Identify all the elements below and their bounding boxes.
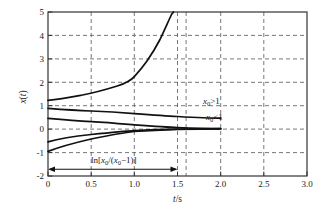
y-axis-label: x(t) [18,90,29,104]
xtick-label-2p5: 2.5 [258,179,270,189]
ytick-label-neg2: -2 [37,171,45,181]
annotation-tc-pre: ln[ [91,155,101,165]
ytick-label-0: 0 [40,124,45,134]
xtick-label-1p0: 1.0 [129,179,141,189]
ytick-label-1: 1 [40,101,45,111]
x-axis-label: t/s [173,194,182,204]
annotation-tc-post: −1)] [121,155,137,165]
xtick-label-0p5: 0.5 [86,179,98,189]
y-axis-label-close: ) [18,90,29,93]
xtick-label-0: 0 [46,179,51,189]
xtick-label-2p0: 2.0 [215,179,227,189]
annotation-x0-gt-1: x0>1 [202,96,220,107]
ytick-label-2: 2 [40,78,45,88]
ytick-label-4: 4 [40,31,45,41]
annotation-time-constant: ln[x0/(x0−1)] [91,155,137,166]
ytick-label-neg1: -1 [37,148,45,158]
chart-figure: 0 0.5 1.0 1.5 2.0 2.5 3.0 t/s 5 4 3 2 1 … [0,0,331,211]
ytick-label-5: 5 [40,7,45,17]
ytick-label-3: 3 [40,54,45,64]
annotation-x0-lt-1-rel: <1 [213,112,223,122]
xtick-label-3p0: 3.0 [301,179,313,189]
xtick-label-1p5: 1.5 [172,179,184,189]
x-axis-label-units: /s [176,194,183,204]
annotation-x0-gt-1-rel: >1 [210,96,220,106]
annotation-x0-lt-1: x0<1 [205,112,223,123]
